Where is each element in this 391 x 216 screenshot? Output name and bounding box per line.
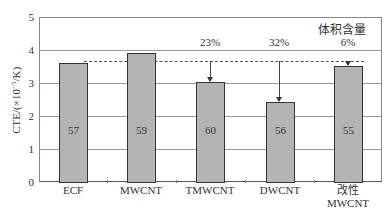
cte-bar-chart: 0 1 2 3 4 5 CTE/(×10−5/K) 57 59 60 56 55… (0, 0, 391, 216)
arrowhead-icon (276, 97, 282, 102)
pct-modified: 6% (328, 36, 368, 48)
y-axis-title: CTE/(×10−5/K) (10, 50, 23, 150)
arrowhead-icon (207, 77, 213, 82)
arrowhead-icon (345, 61, 351, 66)
bar-label-mwcnt: 59 (127, 124, 156, 136)
bar-label-modified-mwcnt: 55 (334, 124, 363, 136)
x-label-dwcnt: DWCNT (245, 184, 315, 197)
x-label-ecf: ECF (38, 184, 108, 197)
bar-label-ecf: 57 (59, 124, 88, 136)
x-tick (314, 180, 315, 183)
bar-mwcnt (127, 53, 156, 183)
y-tick-label: 3 (22, 77, 34, 89)
arrow-tmwcnt (210, 61, 211, 77)
x-tick (176, 180, 177, 183)
arrow-dwcnt (279, 61, 280, 97)
y-tick-label: 2 (22, 110, 34, 122)
y-axis-title-unit: /K) (10, 67, 22, 82)
y-tick-label: 0 (22, 176, 34, 188)
pct-tmwcnt: 23% (190, 36, 230, 48)
pct-dwcnt: 32% (259, 36, 299, 48)
bar-ecf (59, 63, 88, 183)
x-tick (107, 180, 108, 183)
y-axis-title-exponent: −5 (10, 82, 18, 89)
y-axis-title-main: CTE/(×10 (10, 89, 22, 134)
y-tick-label: 4 (22, 44, 34, 56)
x-label-modified-line1: 改性 (313, 184, 383, 197)
x-label-mwcnt: MWCNT (106, 184, 176, 197)
y-tick-label: 5 (22, 11, 34, 23)
bar-label-tmwcnt: 60 (196, 124, 225, 136)
reference-dashed-line (84, 61, 364, 62)
y-tick-label: 1 (22, 143, 34, 155)
x-label-modified-mwcnt: 改性 MWCNT (313, 184, 383, 210)
x-label-tmwcnt: TMWCNT (175, 184, 245, 197)
bar-dwcnt (266, 102, 295, 183)
x-tick (245, 180, 246, 183)
x-label-modified-line2: MWCNT (313, 197, 383, 210)
bar-label-dwcnt: 56 (266, 124, 295, 136)
